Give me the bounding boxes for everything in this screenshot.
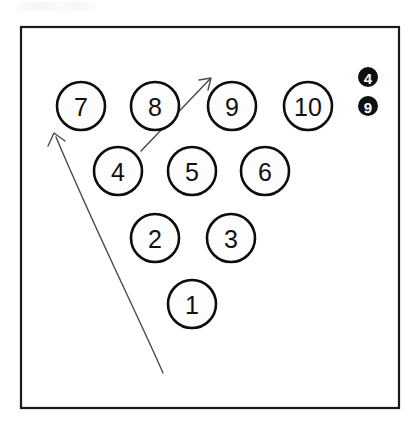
badge-9[interactable]: 9 xyxy=(358,96,378,116)
diagram-stage: 78910456231 49 xyxy=(0,0,420,426)
pin-label-6: 6 xyxy=(258,158,272,186)
pin-label-4: 4 xyxy=(111,158,125,186)
pin-label-2: 2 xyxy=(148,225,162,253)
pin-2[interactable]: 2 xyxy=(131,214,179,262)
pin-9[interactable]: 9 xyxy=(208,82,256,130)
pin-3[interactable]: 3 xyxy=(207,214,255,262)
pin-label-3: 3 xyxy=(224,225,238,253)
badge-label-4: 4 xyxy=(364,70,373,87)
pin-8[interactable]: 8 xyxy=(131,82,179,130)
pin-label-1: 1 xyxy=(185,291,199,319)
pin-label-5: 5 xyxy=(185,158,199,186)
pin-label-8: 8 xyxy=(148,93,162,121)
pin-label-9: 9 xyxy=(225,93,239,121)
badges-group: 49 xyxy=(358,67,378,116)
pin-7[interactable]: 7 xyxy=(57,82,105,130)
pin-5[interactable]: 5 xyxy=(168,147,216,195)
pin-4[interactable]: 4 xyxy=(94,147,142,195)
pin-6[interactable]: 6 xyxy=(241,147,289,195)
badge-label-9: 9 xyxy=(364,99,372,116)
pin-1[interactable]: 1 xyxy=(168,280,216,328)
bowling-pin-diagram: 78910456231 49 xyxy=(0,0,420,426)
pin-label-7: 7 xyxy=(74,93,88,121)
pin-10[interactable]: 10 xyxy=(284,82,332,130)
pin-label-10: 10 xyxy=(294,93,322,121)
badge-4[interactable]: 4 xyxy=(358,67,378,87)
pins-group: 78910456231 xyxy=(57,82,332,328)
